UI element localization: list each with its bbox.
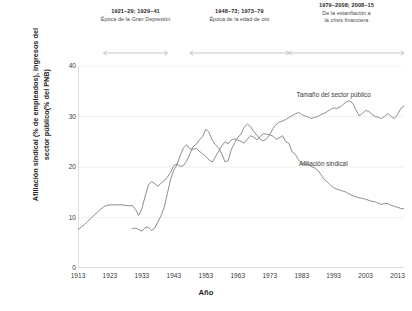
y-tick-label: 10 [54, 214, 76, 221]
era-desc-label: Época de la edad de oro [179, 16, 299, 22]
y-axis-ticks: 010203040 [50, 66, 76, 268]
era-range-label: 1979–2008; 2008–15 [286, 2, 406, 9]
y-tick-label: 20 [54, 163, 76, 170]
y-axis-title-line1: Afiliación sindical (% de empleados), in… [31, 28, 40, 201]
series-label-union-membership: Afiliación sindical [299, 160, 348, 167]
era-range-label: 1948–73; 1973–79 [179, 8, 299, 15]
plot-area: Tamaño del sector público Afiliación sin… [78, 66, 404, 268]
y-tick-label: 40 [54, 62, 76, 69]
era-annotation-golden-age: 1948–73; 1973–79 Época de la edad de oro [179, 8, 299, 23]
era-annotation-great-depression: 1921–29; 1929–41 Época de la Gran Depres… [76, 8, 196, 23]
era-annotations: 1921–29; 1929–41 Época de la Gran Depres… [96, 8, 404, 56]
y-tick-label: 30 [54, 113, 76, 120]
x-axis-ticks: 1913192319331943195319631973198319932003… [78, 272, 404, 284]
era-desc-label-2: la crisis financiera [286, 17, 406, 23]
chart-figure: 1921–29; 1929–41 Época de la Gran Depres… [0, 0, 412, 311]
x-tick-label: 2013 [378, 272, 412, 279]
series-label-public-sector: Tamaño del sector público [296, 91, 370, 98]
era-annotation-stagflation-crisis: 1979–2008; 2008–15 De la estanflación a … [286, 2, 406, 23]
era-range-label: 1921–29; 1929–41 [76, 8, 196, 15]
x-axis-title: Año [0, 288, 412, 297]
era-desc-label: Época de la Gran Depresión [76, 16, 196, 22]
y-tick-label: 0 [54, 264, 76, 271]
era-span-arrows [96, 49, 404, 56]
